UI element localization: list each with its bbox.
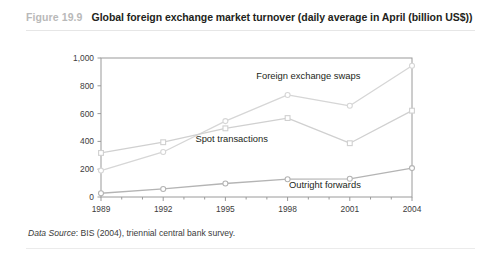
- series-marker-2: [223, 181, 228, 186]
- y-axis-label: 0: [89, 192, 94, 202]
- source-note: Data Source: BIS (2004), triennial centr…: [28, 228, 235, 238]
- source-text: : BIS (2004), triennial central bank sur…: [76, 228, 235, 238]
- series-marker-2: [99, 191, 104, 196]
- y-axis-label: 1,000: [73, 53, 94, 63]
- series-marker-1: [410, 108, 415, 113]
- series-line-2: [101, 168, 412, 193]
- series-marker-1: [347, 141, 352, 146]
- series-marker-1: [285, 116, 290, 121]
- figure-number: Figure 19.9: [26, 11, 83, 23]
- figure-title: Global foreign exchange market turnover …: [92, 11, 473, 23]
- y-axis-label: 200: [80, 164, 94, 174]
- title-divider: [26, 30, 475, 31]
- series-marker-1: [161, 140, 166, 145]
- x-axis-label: 2004: [403, 204, 422, 214]
- x-axis-label: 1992: [154, 204, 173, 214]
- line-chart: 02004006008001,0001989199219951998200120…: [0, 36, 500, 222]
- series-marker-0: [161, 149, 166, 154]
- figure-title-row: Figure 19.9 Global foreign exchange mark…: [0, 6, 500, 28]
- x-axis-label: 1989: [92, 204, 111, 214]
- series-marker-0: [410, 63, 415, 68]
- series-marker-0: [347, 103, 352, 108]
- series-label-1: Spot transactions: [195, 133, 268, 144]
- y-axis-label: 400: [80, 136, 94, 146]
- series-line-1: [101, 111, 412, 153]
- series-marker-0: [285, 92, 290, 97]
- figure-container: Figure 19.9 Global foreign exchange mark…: [0, 0, 500, 270]
- y-axis-label: 600: [80, 109, 94, 119]
- source-label: Data Source: [28, 228, 76, 238]
- series-marker-1: [223, 126, 228, 131]
- y-axis-label: 800: [80, 81, 94, 91]
- series-label-2: Outright forwards: [289, 179, 361, 190]
- x-axis-label: 2001: [340, 204, 359, 214]
- series-marker-0: [223, 119, 228, 124]
- bottom-divider: [26, 248, 475, 249]
- series-marker-1: [99, 151, 104, 156]
- x-axis-label: 1995: [216, 204, 235, 214]
- chart-area: 02004006008001,0001989199219951998200120…: [0, 36, 500, 222]
- series-label-0: Foreign exchange swaps: [256, 70, 361, 81]
- series-line-0: [101, 66, 412, 171]
- series-marker-2: [161, 186, 166, 191]
- x-axis-label: 1998: [278, 204, 297, 214]
- series-marker-2: [410, 166, 415, 171]
- series-marker-0: [99, 168, 104, 173]
